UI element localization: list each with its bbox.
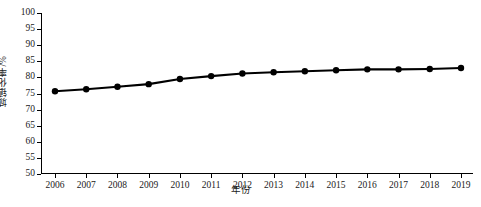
y-tick-label: 75: [26, 89, 36, 99]
x-tick-mark: [274, 174, 275, 178]
y-axis-title: 城镇化率/%: [0, 56, 13, 107]
x-tick-mark: [149, 174, 150, 178]
y-tick-label: 90: [26, 40, 36, 50]
x-tick-mark: [399, 174, 400, 178]
plot-area: 50556065707580859095100 2006200720082009…: [41, 13, 473, 174]
data-point-marker: [427, 66, 433, 72]
y-tick-label: 100: [21, 8, 35, 18]
x-tick-mark: [242, 174, 243, 178]
x-tick-mark: [55, 174, 56, 178]
data-point-marker: [458, 65, 464, 71]
y-tick-label: 55: [26, 153, 36, 163]
data-point-marker: [52, 88, 58, 94]
y-tick-mark: [37, 174, 41, 175]
data-point-marker: [395, 66, 401, 72]
y-tick-label: 70: [26, 105, 36, 115]
y-tick-label: 50: [26, 169, 36, 179]
data-point-marker: [270, 69, 276, 75]
y-tick-label: 60: [26, 137, 36, 147]
data-point-marker: [208, 73, 214, 79]
y-tick-label: 95: [26, 24, 36, 34]
x-tick-mark: [211, 174, 212, 178]
chart-container: 城镇化率/% 50556065707580859095100 200620072…: [0, 0, 481, 207]
x-tick-mark: [117, 174, 118, 178]
data-point-marker: [302, 68, 308, 74]
x-tick-mark: [86, 174, 87, 178]
x-tick-mark: [305, 174, 306, 178]
x-tick-mark: [367, 174, 368, 178]
data-point-marker: [145, 81, 151, 87]
y-tick-label: 80: [26, 73, 36, 83]
data-point-marker: [364, 66, 370, 72]
y-tick-label: 85: [26, 57, 36, 67]
data-point-marker: [114, 84, 120, 90]
x-axis-title: 年份: [0, 186, 481, 196]
series-line-markers: [41, 13, 473, 174]
y-tick-label: 65: [26, 121, 36, 131]
x-tick-mark: [336, 174, 337, 178]
data-point-marker: [177, 76, 183, 82]
data-point-marker: [83, 86, 89, 92]
x-tick-mark: [180, 174, 181, 178]
data-point-marker: [239, 70, 245, 76]
data-point-marker: [333, 67, 339, 73]
x-tick-mark: [430, 174, 431, 178]
x-tick-mark: [461, 174, 462, 178]
